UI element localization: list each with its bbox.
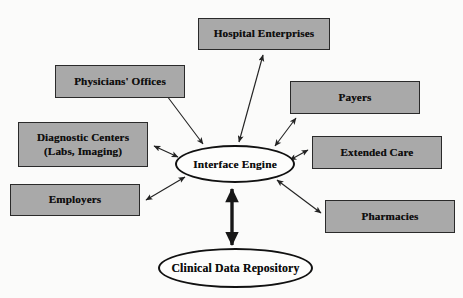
node-label-diagnostic-centers-line2: (Labs, Imaging) <box>44 145 122 158</box>
connector-diagnostic-centers <box>154 146 178 157</box>
connector-hospital-enterprises <box>239 55 263 142</box>
node-label-employers: Employers <box>49 193 101 206</box>
connector-employers <box>146 177 185 200</box>
node-label-extended-care: Extended Care <box>341 146 414 159</box>
connector-pharmacies <box>277 180 321 213</box>
node-clinical-data-repository[interactable]: Clinical Data Repository <box>158 248 313 288</box>
node-label-pharmacies: Pharmacies <box>362 210 419 223</box>
node-label-hospital-enterprises: Hospital Enterprises <box>214 27 315 40</box>
node-payers[interactable]: Payers <box>290 81 420 114</box>
diagram-canvas: Hospital Enterprises Physicians' Offices… <box>0 0 463 298</box>
node-physicians-offices[interactable]: Physicians' Offices <box>55 65 185 98</box>
node-label-payers: Payers <box>339 91 372 104</box>
node-diagnostic-centers[interactable]: Diagnostic Centers (Labs, Imaging) <box>18 122 148 167</box>
node-pharmacies[interactable]: Pharmacies <box>325 200 455 233</box>
node-label-diagnostic-centers-line1: Diagnostic Centers <box>37 131 129 144</box>
node-extended-care[interactable]: Extended Care <box>312 136 442 169</box>
node-hospital-enterprises[interactable]: Hospital Enterprises <box>198 18 330 50</box>
node-label-physicians-offices: Physicians' Offices <box>74 75 166 88</box>
node-employers[interactable]: Employers <box>10 184 140 216</box>
node-label-interface-engine: Interface Engine <box>193 158 277 170</box>
connector-payers <box>275 118 296 146</box>
node-interface-engine[interactable]: Interface Engine <box>175 145 295 183</box>
node-label-clinical-data-repository: Clinical Data Repository <box>171 261 299 276</box>
